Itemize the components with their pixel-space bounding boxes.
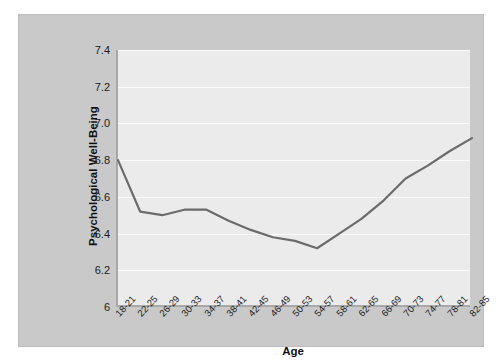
series-line-layer bbox=[118, 50, 472, 307]
figure-panel: Psychological Well-Being 66.26.46.66.87.… bbox=[18, 14, 484, 347]
x-axis-title: Age bbox=[116, 345, 470, 357]
plot-area bbox=[116, 50, 470, 307]
y-axis-tick-label: 6.6 bbox=[64, 191, 110, 203]
y-axis-tick-label: 7.4 bbox=[64, 44, 110, 56]
y-axis-tick-label: 7.2 bbox=[64, 81, 110, 93]
y-axis-tick-labels: 66.26.46.66.87.07.27.4 bbox=[62, 50, 110, 307]
y-axis-tick-label: 6 bbox=[64, 301, 110, 313]
y-axis-tick-label: 7.0 bbox=[64, 117, 110, 129]
series-line-well-being bbox=[118, 138, 472, 248]
y-axis-tick-label: 6.8 bbox=[64, 154, 110, 166]
y-axis-tick-label: 6.4 bbox=[64, 228, 110, 240]
chart-figure: Psychological Well-Being 66.26.46.66.87.… bbox=[0, 0, 502, 364]
y-axis-tick-label: 6.2 bbox=[64, 264, 110, 276]
